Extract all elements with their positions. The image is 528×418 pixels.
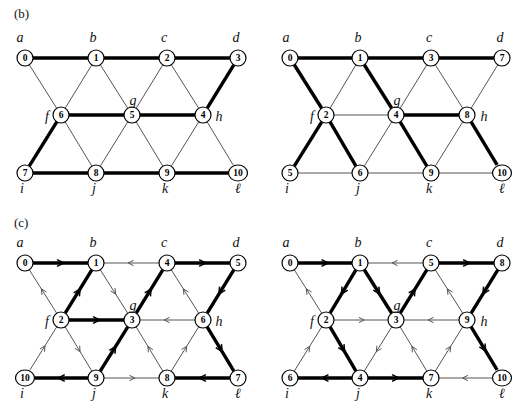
node-7[interactable]: 7 — [494, 50, 510, 66]
node-10[interactable]: 10 — [493, 165, 512, 181]
node-0[interactable]: 0 — [17, 50, 33, 66]
edge-2-9 — [65, 327, 92, 371]
node-label: 0 — [288, 53, 293, 63]
node-6[interactable]: 6 — [352, 165, 368, 181]
node-8[interactable]: 8 — [88, 165, 104, 181]
edge-9-3 — [100, 327, 128, 371]
node-2[interactable]: 2 — [318, 107, 334, 123]
corner-label-f: f — [45, 314, 51, 329]
node-label: 2 — [59, 315, 64, 325]
node-label: 5 — [236, 258, 241, 268]
node-5[interactable]: 5 — [282, 165, 298, 181]
node-9[interactable]: 9 — [88, 370, 104, 386]
corner-label-k: k — [426, 386, 433, 401]
node-3[interactable]: 3 — [388, 312, 404, 328]
node-10[interactable]: 10 — [229, 165, 248, 181]
node-label: 10 — [233, 168, 243, 178]
node-9[interactable]: 9 — [159, 165, 175, 181]
node-label: 9 — [94, 373, 99, 383]
node-0[interactable]: 0 — [17, 255, 33, 271]
node-6[interactable]: 6 — [195, 312, 211, 328]
node-10[interactable]: 10 — [493, 370, 512, 386]
edge-3-5 — [400, 270, 427, 313]
node-6[interactable]: 6 — [53, 107, 69, 123]
node-label: 6 — [288, 373, 293, 383]
corner-label-a: a — [17, 235, 24, 250]
edge-7-8 — [471, 65, 498, 108]
node-label: 2 — [324, 315, 329, 325]
corner-label-c: c — [426, 235, 433, 250]
corner-label-g: g — [394, 93, 401, 108]
node-4[interactable]: 4 — [159, 255, 175, 271]
edge-1-2 — [330, 270, 356, 313]
arrowhead-6-2 — [305, 346, 310, 352]
edge-9-10 — [471, 327, 497, 370]
node-5[interactable]: 5 — [230, 255, 246, 271]
node-1[interactable]: 1 — [352, 255, 368, 271]
node-label: 3 — [429, 53, 434, 63]
node-4[interactable]: 4 — [352, 370, 368, 386]
panel-b-right: 013724856910abcdfghijkℓ — [282, 30, 512, 196]
edge-7-3 — [400, 327, 427, 371]
node-label: 1 — [94, 258, 99, 268]
node-3[interactable]: 3 — [423, 50, 439, 66]
corner-label-h: h — [216, 109, 223, 124]
edge-1-3 — [100, 270, 127, 313]
node-label: 5 — [130, 110, 135, 120]
node-label: 8 — [500, 258, 505, 268]
node-10[interactable]: 10 — [16, 370, 35, 386]
node-9[interactable]: 9 — [423, 165, 439, 181]
edge-1-6 — [65, 65, 92, 108]
figure-canvas: 012365478910abcdfghijkℓ(b)013724856910ab… — [0, 0, 528, 418]
node-7[interactable]: 7 — [423, 370, 439, 386]
edge-2-5 — [136, 65, 163, 108]
edge-1-5 — [100, 65, 127, 108]
node-9[interactable]: 9 — [459, 312, 475, 328]
node-3[interactable]: 3 — [124, 312, 140, 328]
node-label: 0 — [23, 53, 28, 63]
node-label: 6 — [358, 168, 363, 178]
node-label: 1 — [94, 53, 99, 63]
node-4[interactable]: 4 — [195, 107, 211, 123]
edge-4-9 — [171, 122, 199, 166]
corner-label-a: a — [283, 30, 290, 45]
corner-label-ℓ: ℓ — [235, 386, 241, 401]
node-2[interactable]: 2 — [318, 312, 334, 328]
node-label: 3 — [394, 315, 399, 325]
node-4[interactable]: 4 — [388, 107, 404, 123]
edge-3-4 — [136, 270, 163, 313]
node-label: 8 — [465, 110, 470, 120]
node-1[interactable]: 1 — [88, 255, 104, 271]
node-3[interactable]: 3 — [230, 50, 246, 66]
node-1[interactable]: 1 — [88, 50, 104, 66]
node-label: 4 — [358, 373, 363, 383]
node-label: 6 — [201, 315, 206, 325]
node-label: 7 — [429, 373, 434, 383]
arrowhead-8-6 — [182, 346, 187, 352]
node-5[interactable]: 5 — [423, 255, 439, 271]
node-0[interactable]: 0 — [282, 255, 298, 271]
node-label: 7 — [236, 373, 241, 383]
node-5[interactable]: 5 — [124, 107, 140, 123]
corner-label-j: j — [90, 386, 96, 401]
node-1[interactable]: 1 — [352, 50, 368, 66]
node-label: 1 — [358, 53, 363, 63]
edge-4-6 — [364, 122, 392, 166]
node-label: 8 — [94, 168, 99, 178]
node-label: 3 — [130, 315, 135, 325]
node-7[interactable]: 7 — [17, 165, 33, 181]
arrowhead-6-4 — [183, 289, 188, 295]
node-8[interactable]: 8 — [494, 255, 510, 271]
node-2[interactable]: 2 — [53, 312, 69, 328]
corner-label-k: k — [162, 386, 169, 401]
node-7[interactable]: 7 — [230, 370, 246, 386]
node-2[interactable]: 2 — [159, 50, 175, 66]
node-label: 3 — [236, 53, 241, 63]
edge-1-3 — [364, 270, 391, 313]
node-6[interactable]: 6 — [282, 370, 298, 386]
node-8[interactable]: 8 — [159, 370, 175, 386]
node-8[interactable]: 8 — [459, 107, 475, 123]
edge-0-6 — [29, 65, 56, 108]
edge-10-2 — [30, 327, 57, 370]
node-0[interactable]: 0 — [282, 50, 298, 66]
